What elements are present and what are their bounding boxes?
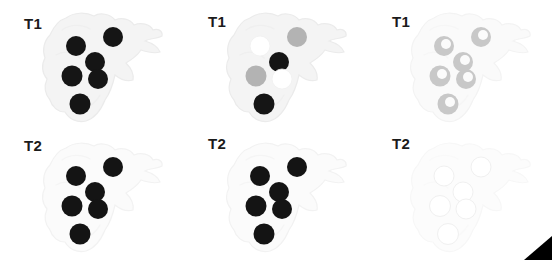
- lesion-lower-left: [438, 224, 459, 245]
- lesion-upper-left: [250, 36, 270, 56]
- lesion-center: [85, 52, 105, 72]
- lesion-upper-left: [66, 36, 86, 56]
- lesion-center: [453, 52, 473, 72]
- lesion-upper-right: [103, 157, 123, 177]
- lesion-upper-left: [250, 166, 270, 186]
- lesion-upper-left: [66, 166, 86, 186]
- lesion-lower-left: [70, 224, 91, 245]
- lesion-mid-right: [272, 69, 292, 89]
- panel-label-t1-col1: T1: [24, 16, 42, 31]
- panel-label-t1-col2: T1: [208, 14, 226, 29]
- lesion-lower-left: [70, 94, 91, 115]
- lesion-upper-right: [471, 157, 491, 177]
- mri-figure-grid: T1 T1: [0, 0, 552, 260]
- lesion-mid-left: [246, 196, 267, 217]
- lesion-upper-right: [287, 157, 307, 177]
- lesion-upper-right: [287, 27, 307, 47]
- lesion-mid-right: [272, 199, 292, 219]
- lesion-upper-left: [434, 166, 454, 186]
- panel-t1-col3: T1: [368, 0, 552, 130]
- panel-t2-col2: T2: [184, 130, 368, 260]
- lesion-mid-right: [456, 69, 476, 89]
- panel-t2-col1: T2: [0, 130, 184, 260]
- lesion-mid-left: [430, 66, 451, 87]
- lesion-mid-left: [246, 66, 267, 87]
- lesion-mid-left: [62, 196, 83, 217]
- lesion-center: [85, 182, 105, 202]
- lesion-center: [269, 182, 289, 202]
- lesion-mid-left: [430, 196, 451, 217]
- lesion-mid-right: [88, 69, 108, 89]
- panel-label-t2-col1: T2: [24, 138, 42, 153]
- lesion-center: [269, 52, 289, 72]
- lesion-lower-left: [254, 224, 275, 245]
- panel-label-t2-col3: T2: [392, 136, 410, 151]
- panel-label-t2-col2: T2: [208, 136, 226, 151]
- lesion-lower-left: [254, 94, 275, 115]
- arrowhead-icon: [524, 236, 552, 260]
- panel-t1-col2: T1: [184, 0, 368, 130]
- lesion-mid-right: [456, 199, 476, 219]
- lesion-upper-right: [471, 27, 491, 47]
- lesion-upper-right: [103, 27, 123, 47]
- lesion-mid-right: [88, 199, 108, 219]
- lesion-mid-left: [62, 66, 83, 87]
- lesion-lower-left: [438, 94, 459, 115]
- panel-label-t1-col3: T1: [392, 14, 410, 29]
- arrowhead-svg: [524, 236, 552, 260]
- panel-t1-col1: T1: [0, 0, 184, 130]
- lesion-upper-left: [434, 36, 454, 56]
